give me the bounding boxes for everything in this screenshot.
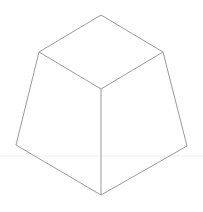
left-face-edges xyxy=(16,52,101,195)
top-face xyxy=(39,15,163,89)
frustum-diagram xyxy=(0,0,203,212)
right-face-edges xyxy=(101,52,187,195)
frustum-edges xyxy=(16,15,187,195)
